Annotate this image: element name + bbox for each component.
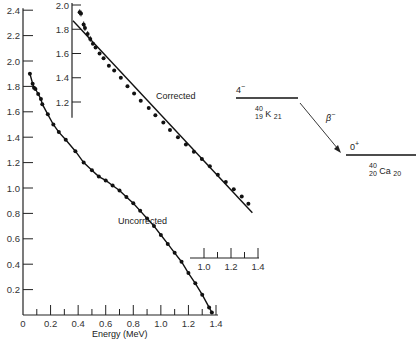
data-point — [112, 68, 116, 72]
kurie-plot: 0.20.40.60.81.01.21.41.61.82.02.22.400.2… — [0, 0, 416, 348]
data-point — [94, 45, 98, 49]
data-point — [216, 173, 220, 177]
decay-scheme: 4− 40 19 K 21 β− 0+ 40 20 Ca 20 — [236, 83, 416, 178]
data-point — [73, 149, 77, 153]
y-tick-label: 0.6 — [7, 233, 20, 244]
data-point — [104, 178, 108, 182]
data-point — [180, 260, 184, 264]
x-tick-label: 0.4 — [72, 318, 85, 329]
y-tick-label: 1.6 — [7, 106, 20, 117]
data-point — [40, 102, 44, 106]
corrected-series — [73, 9, 252, 212]
x-tick-label: 0 — [20, 318, 25, 329]
data-point — [139, 99, 143, 103]
y-tick-label: 1.2 — [7, 157, 20, 168]
data-point — [125, 84, 129, 88]
daughter-nuclide: 40 20 Ca 20 — [369, 160, 401, 178]
data-point — [39, 97, 43, 101]
data-point — [51, 123, 55, 127]
x-tick-label: 1.2 — [182, 318, 195, 329]
data-point — [111, 183, 115, 187]
inset-y-tick-label: 2.0 — [56, 0, 69, 11]
data-point — [107, 64, 111, 68]
data-point — [166, 242, 170, 246]
x-tick-label: 0.8 — [127, 318, 140, 329]
data-point — [91, 42, 95, 46]
data-point — [153, 113, 157, 117]
y-tick-label: 2.2 — [7, 30, 20, 41]
data-point — [31, 82, 35, 86]
uncorrected-series — [28, 72, 214, 315]
data-point — [161, 121, 165, 125]
data-point — [210, 310, 214, 314]
beta-label: β− — [325, 111, 335, 123]
data-point — [131, 201, 135, 205]
x-tick-label: 0.6 — [99, 318, 112, 329]
inset-y-tick-label: 1.2 — [56, 97, 69, 108]
data-point — [147, 106, 151, 110]
main-axes: 0.20.40.60.81.01.21.41.61.82.02.22.400.2… — [7, 5, 223, 329]
data-point — [90, 168, 94, 172]
data-point — [224, 180, 228, 184]
uncorrected-label: Uncorrected — [118, 216, 167, 226]
y-tick-label: 2.4 — [7, 5, 20, 16]
x-axis-title: Energy (MeV) — [92, 329, 148, 339]
inset-axes: 1.21.41.61.82.01.01.21.4 — [56, 0, 265, 272]
data-point — [86, 32, 90, 36]
y-tick-label: 1.4 — [7, 132, 20, 143]
data-point — [57, 130, 61, 134]
y-tick-label: 0.2 — [7, 284, 20, 295]
inset-x-tick-label: 1.2 — [224, 261, 237, 272]
data-point — [246, 202, 250, 206]
data-point — [98, 52, 102, 56]
y-tick-label: 0.4 — [7, 259, 20, 270]
data-point — [82, 161, 86, 165]
data-point — [28, 72, 32, 76]
y-tick-label: 1.8 — [7, 81, 20, 92]
arrowhead-icon — [334, 145, 341, 153]
data-point — [184, 142, 188, 146]
data-point — [168, 128, 172, 132]
parent-spin-parity: 4− — [236, 83, 245, 95]
x-tick-label: 0.2 — [44, 318, 57, 329]
data-point — [64, 138, 68, 142]
data-point — [200, 157, 204, 161]
data-point — [159, 233, 163, 237]
data-point — [193, 281, 197, 285]
inset-y-tick-label: 1.4 — [56, 72, 69, 83]
data-point — [176, 135, 180, 139]
data-point — [119, 76, 123, 80]
x-tick-label: 1.4 — [209, 318, 222, 329]
data-point — [208, 164, 212, 168]
data-point — [97, 175, 101, 179]
data-point — [88, 37, 92, 41]
corrected-label: Corrected — [156, 91, 196, 101]
data-point — [138, 209, 142, 213]
data-point — [102, 56, 106, 60]
inset-x-tick-label: 1.4 — [251, 261, 264, 272]
inset-x-tick-label: 1.0 — [197, 261, 210, 272]
daughter-spin-parity: 0+ — [350, 140, 359, 152]
data-point — [46, 112, 50, 116]
data-point — [79, 11, 83, 15]
data-point — [207, 305, 211, 309]
data-point — [173, 251, 177, 255]
data-point — [132, 92, 136, 96]
data-point — [124, 195, 128, 199]
data-point — [33, 87, 37, 91]
y-tick-label: 1.0 — [7, 183, 20, 194]
x-tick-label: 1.0 — [154, 318, 167, 329]
data-point — [200, 293, 204, 297]
y-tick-label: 0.8 — [7, 208, 20, 219]
data-point — [192, 150, 196, 154]
data-point — [240, 195, 244, 199]
inset-y-tick-label: 1.6 — [56, 48, 69, 59]
beta-decay-arrow — [300, 103, 338, 149]
parent-nuclide: 40 19 K 21 — [255, 103, 282, 121]
data-point — [118, 189, 122, 193]
data-point — [186, 271, 190, 275]
y-tick-label: 2.0 — [7, 56, 20, 67]
data-point — [83, 26, 87, 30]
data-point — [36, 92, 40, 96]
data-point — [232, 187, 236, 191]
